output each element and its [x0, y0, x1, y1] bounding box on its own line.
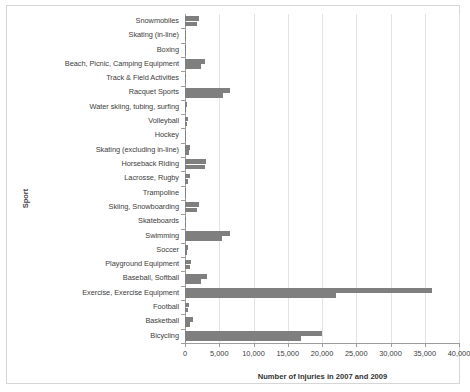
x-axis-tick — [288, 343, 289, 347]
bar — [185, 231, 230, 236]
x-axis-tick — [322, 343, 323, 347]
category-label: Volleyball — [25, 117, 179, 125]
category-label: Horseback Riding — [25, 160, 179, 168]
bar-group — [185, 14, 459, 28]
x-axis-tick-label: 20,000 — [311, 349, 334, 358]
bar — [185, 179, 188, 184]
category-tick — [181, 28, 185, 29]
category-tick — [181, 157, 185, 158]
category-tick — [181, 300, 185, 301]
bar-group — [185, 128, 459, 142]
bar-group — [185, 286, 459, 300]
chart-frame: Sport SnowmobilesSkating (in-line)Boxing… — [6, 5, 460, 384]
bar-group — [185, 114, 459, 128]
bar-group — [185, 143, 459, 157]
category-label: Water skiing, tubing, surfing — [25, 103, 179, 111]
x-axis-tick-label: 10,000 — [242, 349, 265, 358]
category-label: Hockey — [25, 131, 179, 139]
category-label: Beach, Picnic, Camping Equipment — [25, 60, 179, 68]
x-axis-tick-label: 25,000 — [345, 349, 368, 358]
bar-group — [185, 171, 459, 185]
category-label: Skiing, Snowboarding — [25, 203, 179, 211]
category-label: Track & Field Activities — [25, 74, 179, 82]
bar — [185, 107, 186, 112]
category-label: Skating (excluding in-line) — [25, 146, 179, 154]
bar — [185, 22, 197, 27]
bar — [185, 174, 190, 179]
bar — [185, 36, 186, 41]
bar — [185, 245, 188, 250]
bar — [185, 165, 205, 170]
category-tick — [181, 257, 185, 258]
category-tick — [181, 271, 185, 272]
category-tick — [181, 128, 185, 129]
category-tick — [181, 186, 185, 187]
bar-group — [185, 300, 459, 314]
x-axis-tick — [219, 343, 220, 347]
bar-group — [185, 229, 459, 243]
x-axis-tick — [425, 343, 426, 347]
category-label: Playground Equipment — [25, 260, 179, 268]
x-axis-tick — [185, 343, 186, 347]
bar-group — [185, 57, 459, 71]
bar — [185, 236, 222, 241]
x-axis-tick-label: 5,000 — [210, 349, 229, 358]
bar — [185, 322, 190, 327]
bar — [185, 88, 230, 93]
category-tick — [181, 143, 185, 144]
bar — [185, 79, 186, 84]
bar — [185, 159, 206, 164]
category-label: Bicycling — [25, 332, 179, 340]
bar — [185, 59, 205, 64]
bar-group — [185, 329, 459, 343]
x-axis-tick — [254, 343, 255, 347]
category-tick — [181, 329, 185, 330]
bar — [185, 308, 188, 313]
category-label: Skateboards — [25, 217, 179, 225]
category-tick — [181, 200, 185, 201]
category-label: Trampoline — [25, 189, 179, 197]
bar — [185, 122, 187, 127]
bar-group — [185, 200, 459, 214]
category-tick — [181, 314, 185, 315]
x-axis-tick-label: 0 — [183, 349, 187, 358]
bar — [185, 260, 191, 265]
category-tick — [181, 114, 185, 115]
x-axis-title: Number of Injuries in 2007 and 2009 — [185, 372, 460, 381]
category-label: Lacrosse, Rugby — [25, 174, 179, 182]
bar-group — [185, 214, 459, 228]
bar-group — [185, 86, 459, 100]
category-tick — [181, 86, 185, 87]
bar — [185, 117, 188, 122]
category-tick — [181, 214, 185, 215]
category-label: Basketball — [25, 317, 179, 325]
bar — [185, 74, 186, 79]
bar — [185, 131, 186, 136]
bar — [185, 288, 432, 293]
bar — [185, 293, 336, 298]
category-label: Exercise, Exercise Equipment — [25, 289, 179, 297]
x-axis-tick-label: 35,000 — [413, 349, 436, 358]
category-label: Racquet Sports — [25, 88, 179, 96]
bar-group — [185, 157, 459, 171]
x-axis-tick-label: 15,000 — [276, 349, 299, 358]
gridline — [459, 14, 460, 343]
bar — [185, 331, 322, 336]
category-tick — [181, 286, 185, 287]
bar — [185, 279, 201, 284]
category-tick — [181, 243, 185, 244]
bar-group — [185, 186, 459, 200]
bar-group — [185, 243, 459, 257]
bar-group — [185, 257, 459, 271]
category-tick — [181, 171, 185, 172]
x-axis-tick — [356, 343, 357, 347]
category-label: Snowmobiles — [25, 17, 179, 25]
x-axis-tick-labels: 05,00010,00015,00020,00025,00030,00035,0… — [185, 349, 460, 361]
bar — [185, 31, 186, 36]
category-label: Boxing — [25, 46, 179, 54]
plot-area — [185, 14, 459, 343]
bar — [185, 16, 199, 21]
bar — [185, 202, 199, 207]
category-label: Skating (in-line) — [25, 31, 179, 39]
category-label: Football — [25, 303, 179, 311]
